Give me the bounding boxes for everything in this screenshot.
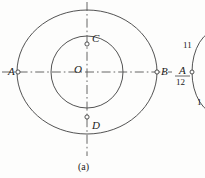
- point-marker-B: [155, 70, 159, 74]
- point-marker-A: [16, 70, 20, 74]
- center-label-O: O: [74, 64, 82, 75]
- geometric-figure-canvas: [0, 0, 205, 178]
- point-label-B: B: [161, 66, 168, 77]
- figure-page: A B C D O (a) A 11 12 1: [0, 0, 205, 178]
- partial-figure-number-11: 11: [183, 41, 192, 50]
- point-label-A: A: [8, 66, 15, 77]
- partial-figure-number-12: 12: [176, 78, 185, 87]
- figure-caption: (a): [78, 162, 89, 172]
- partial-figure-point-label-A: A: [179, 65, 186, 76]
- point-marker-D: [85, 115, 89, 119]
- point-marker-C: [85, 42, 89, 46]
- point-label-D: D: [92, 120, 100, 131]
- partial-figure-number-1: 1: [197, 98, 202, 107]
- partial-clock-point-marker-A: [190, 70, 194, 74]
- point-label-C: C: [92, 33, 99, 44]
